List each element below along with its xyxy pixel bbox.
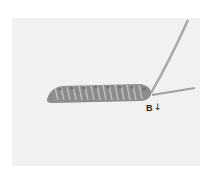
point-label: B <box>146 103 153 113</box>
embroidery-photo: B ↓ <box>0 0 207 175</box>
needle-thread <box>152 88 195 95</box>
down-arrow-icon: ↓ <box>154 102 162 112</box>
stitch-illustration <box>0 0 207 175</box>
stitch-row <box>47 84 151 103</box>
working-thread <box>151 20 188 93</box>
